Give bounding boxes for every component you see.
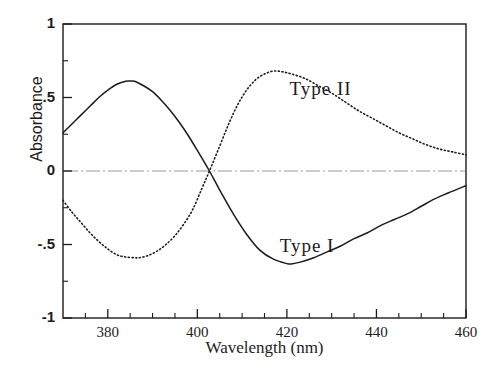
y-tick-label: -.5 (11, 235, 55, 252)
absorbance-spectrum-figure: Absorbance Wavelength (nm) 1.50-.5-1 380… (0, 0, 495, 371)
y-tick-label: 0 (11, 161, 55, 178)
series-line-type-i (63, 81, 466, 264)
x-tick-label: 380 (78, 324, 138, 341)
x-tick-label: 460 (436, 324, 495, 341)
x-axis-title: Wavelength (nm) (63, 338, 466, 358)
x-tick-label: 440 (346, 324, 406, 341)
y-tick-label: 1 (11, 14, 55, 31)
plot-canvas (0, 0, 495, 371)
y-axis-major-ticks (63, 24, 72, 318)
x-tick-label: 420 (257, 324, 317, 341)
series-label-type-i: Type I (280, 235, 335, 257)
series-line-type-ii (63, 71, 466, 258)
x-axis-minor-ticks (85, 313, 443, 318)
y-tick-label: -1 (11, 308, 55, 325)
x-axis-major-ticks (108, 309, 466, 318)
x-tick-label: 400 (167, 324, 227, 341)
y-tick-label: .5 (11, 88, 55, 105)
series-label-type-ii: Type II (290, 78, 352, 100)
